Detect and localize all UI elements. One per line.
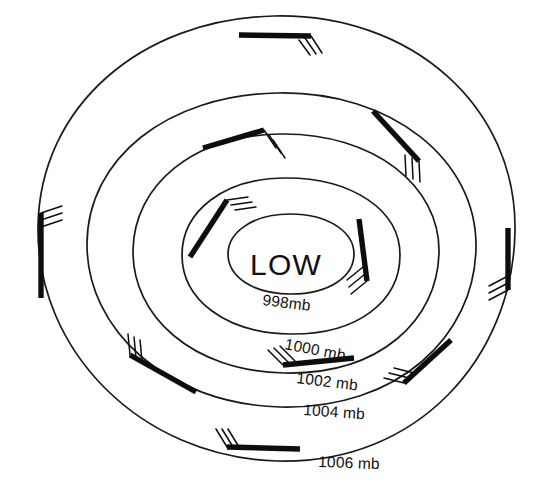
barb-south-shaft	[227, 447, 300, 449]
barb-northeast-feather-0	[419, 161, 420, 182]
isobar-1006	[38, 16, 515, 461]
barb-inner-northwest-feather-1	[231, 202, 252, 205]
isobar-layer	[38, 16, 515, 461]
barb-north-shaft	[239, 35, 311, 36]
barb-south-feather-1	[222, 429, 233, 447]
isobar-1002-label: 1002 mb	[296, 369, 359, 393]
barb-west-feather-1	[41, 213, 62, 220]
barb-inner-north-feather-0	[264, 130, 276, 148]
barb-northeast-feather-2	[405, 155, 406, 176]
isobar-998-label: 998mb	[262, 291, 312, 314]
barb-inner-north-feather-2	[273, 140, 285, 158]
barb-northeast-shaft	[373, 111, 419, 161]
barb-west-feather-2	[41, 220, 62, 227]
low-center-label: LOW	[250, 248, 322, 281]
barb-inner-north-shaft	[203, 130, 264, 148]
weather-map-diagram: 998mb1000 mb1002 mb1004 mb1006 mb LOW	[0, 0, 551, 490]
barb-south-feather-0	[216, 429, 227, 447]
barb-inner-northwest-shaft	[190, 200, 227, 257]
barb-south	[216, 429, 300, 449]
barb-southeast-shaft	[404, 340, 451, 383]
isobar-1006-label: 1006 mb	[318, 453, 380, 472]
barb-west-feather-0	[41, 206, 62, 213]
barb-northeast-feather-1	[412, 158, 413, 179]
isobar-1004-label: 1004 mb	[303, 401, 366, 422]
barb-east	[489, 228, 508, 300]
barb-southeast	[384, 340, 451, 383]
barb-north	[239, 35, 322, 55]
barb-southwest-feather-0	[128, 334, 130, 355]
isobar-svg-canvas: 998mb1000 mb1002 mb1004 mb1006 mb LOW	[0, 0, 551, 490]
barb-inner-south-feather-0	[268, 350, 283, 365]
barb-inner-northwest-feather-0	[227, 197, 248, 200]
barb-south-feather-2	[228, 429, 239, 447]
barb-inner-northwest-feather-2	[235, 207, 256, 210]
barb-southwest	[128, 334, 196, 392]
barb-southwest-shaft	[130, 355, 196, 392]
barb-southeast-feather-0	[384, 378, 404, 383]
barb-inner-northwest	[190, 197, 256, 257]
barb-inner-east-shaft	[359, 219, 367, 281]
barb-inner-east	[347, 219, 367, 294]
